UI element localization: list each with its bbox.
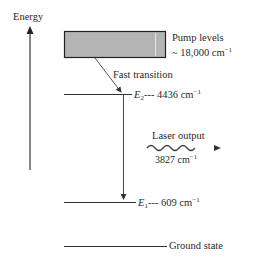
laser-output-wave — [147, 145, 221, 151]
arrow-up-icon — [27, 26, 34, 34]
pump-levels-value: ~ 18,000 cm−1 — [172, 47, 232, 59]
level-e1-label: E1--- 609 cm−1 — [138, 197, 200, 210]
energy-level-diagram — [0, 0, 265, 258]
level-e2-label: E2--- 4436 cm−1 — [134, 89, 201, 102]
laser-output-title: Laser output — [152, 131, 205, 142]
fast-transition-label: Fast transition — [113, 70, 173, 81]
laser-output-value: 3827 cm−1 — [155, 154, 197, 165]
axis-label-energy: Energy — [13, 12, 43, 23]
pump-levels-title: Pump levels — [172, 33, 224, 44]
pump-levels-band — [65, 32, 166, 58]
ground-state-label: Ground state — [169, 241, 223, 252]
energy-axis — [27, 26, 34, 170]
